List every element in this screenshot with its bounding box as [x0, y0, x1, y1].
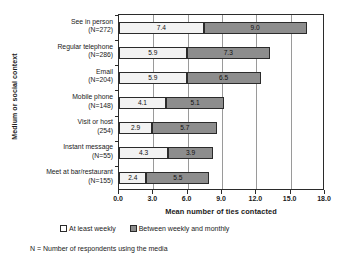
y-axis-tick [115, 65, 119, 66]
bar-row: 5.96.5 [119, 72, 325, 84]
bar-segment-series-2: 9.0 [204, 22, 307, 34]
y-axis-tick [115, 40, 119, 41]
category-name: See in person [9, 18, 113, 27]
legend-label: At least weekly [69, 225, 116, 232]
bar-value-label: 4.3 [139, 149, 148, 156]
category-name: Meet at bar/restaurant [9, 168, 113, 177]
category-name: Instant message [9, 143, 113, 152]
category-count: (N=148) [9, 102, 113, 111]
legend-swatch [130, 225, 137, 232]
bar-value-label: 5.9 [148, 74, 157, 81]
plot-area: 7.49.05.97.35.96.54.15.12.95.74.33.92.45… [118, 14, 324, 190]
bar-row: 2.95.7 [119, 122, 325, 134]
category-count: (N=204) [9, 76, 113, 85]
bar-segment-series-1: 5.9 [119, 47, 187, 59]
bar-value-label: 5.7 [180, 124, 189, 131]
bar-segment-series-2: 5.7 [152, 122, 217, 134]
bar-segment-series-1: 2.4 [119, 172, 146, 184]
x-axis-tick [152, 190, 153, 194]
bar-segment-series-2: 3.9 [168, 147, 213, 159]
legend-item: Between weekly and monthly [130, 225, 230, 232]
category-label-column: See in person(N=272)Regular telephone(N=… [12, 14, 116, 190]
x-axis-tick [255, 190, 256, 194]
y-axis-tick [115, 116, 119, 117]
bar-row: 2.45.5 [119, 172, 325, 184]
bar-row: 7.49.0 [119, 22, 325, 34]
category-count: (N=286) [9, 51, 113, 60]
category-label: Instant message(N=55) [9, 143, 113, 160]
bar-segment-series-2: 6.5 [187, 72, 261, 84]
category-label: Visit or host(254) [9, 118, 113, 135]
x-axis-tick [187, 190, 188, 194]
category-name: Email [9, 68, 113, 77]
x-axis-tick-label: 3.0 [137, 195, 167, 202]
bar-value-label: 3.9 [186, 149, 195, 156]
bar-value-label: 2.9 [131, 124, 140, 131]
category-name: Regular telephone [9, 43, 113, 52]
bar-segment-series-2: 7.3 [187, 47, 271, 59]
bar-value-label: 2.4 [128, 174, 137, 181]
category-label: See in person(N=272) [9, 18, 113, 35]
bar-segment-series-1: 2.9 [119, 122, 152, 134]
bar-segment-series-2: 5.5 [146, 172, 209, 184]
x-axis-tick-label: 6.0 [172, 195, 202, 202]
category-count: (N=155) [9, 177, 113, 186]
chart-footnote: N = Number of respondents using the medi… [30, 245, 168, 252]
bar-segment-series-1: 4.1 [119, 97, 166, 109]
bar-row: 4.15.1 [119, 97, 325, 109]
bar-segment-series-1: 7.4 [119, 22, 204, 34]
legend-label: Between weekly and monthly [139, 225, 230, 232]
x-axis-tick [290, 190, 291, 194]
x-axis-tick-label: 15.0 [275, 195, 305, 202]
category-count: (254) [9, 127, 113, 136]
chart-container: Medium or social context See in person(N… [0, 0, 342, 264]
bar-row: 4.33.9 [119, 147, 325, 159]
x-axis-tick [324, 190, 325, 194]
bar-segment-series-1: 4.3 [119, 147, 168, 159]
bar-value-label: 5.1 [191, 99, 200, 106]
bar-value-label: 4.1 [138, 99, 147, 106]
legend-swatch [60, 225, 67, 232]
y-axis-tick [115, 141, 119, 142]
x-axis-tick [118, 190, 119, 194]
category-count: (N=55) [9, 152, 113, 161]
x-axis-tick-label: 0.0 [103, 195, 133, 202]
chart-legend: At least weeklyBetween weekly and monthl… [60, 225, 229, 232]
x-axis-tick-label: 12.0 [240, 195, 270, 202]
bar-row: 5.97.3 [119, 47, 325, 59]
category-label: Regular telephone(N=286) [9, 43, 113, 60]
bar-value-label: 5.9 [148, 49, 157, 56]
bar-segment-series-2: 5.1 [166, 97, 224, 109]
legend-item: At least weekly [60, 225, 116, 232]
category-name: Visit or host [9, 118, 113, 127]
y-axis-tick [115, 15, 119, 16]
bar-value-label: 7.3 [224, 49, 233, 56]
category-name: Mobile phone [9, 93, 113, 102]
y-axis-tick [115, 166, 119, 167]
x-axis-title: Mean number of ties contacted [118, 207, 324, 216]
x-axis-tick-label: 9.0 [206, 195, 236, 202]
bar-value-label: 9.0 [251, 24, 260, 31]
bar-value-label: 6.5 [219, 74, 228, 81]
bar-segment-series-1: 5.9 [119, 72, 187, 84]
y-axis-tick [115, 90, 119, 91]
x-axis-tick [221, 190, 222, 194]
x-axis-tick-label: 18.0 [309, 195, 339, 202]
bar-value-label: 7.4 [157, 24, 166, 31]
category-label: Mobile phone(N=148) [9, 93, 113, 110]
category-label: Meet at bar/restaurant(N=155) [9, 168, 113, 185]
bar-value-label: 5.5 [173, 174, 182, 181]
category-label: Email(N=204) [9, 68, 113, 85]
category-count: (N=272) [9, 26, 113, 35]
